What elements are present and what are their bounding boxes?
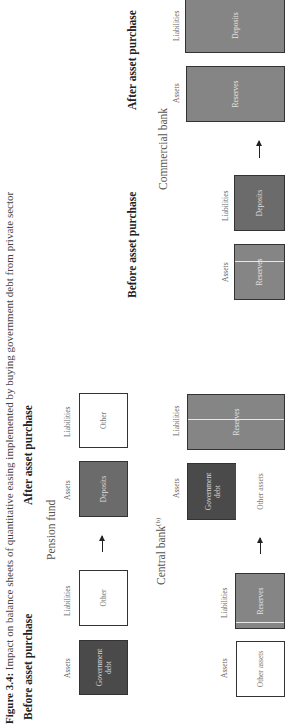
- central-before-liabilities-reserves: Reserves: [235, 573, 285, 629]
- figure-title: Figure 3.4: Impact on balance sheets of …: [3, 192, 15, 724]
- header-after-right: After asset purchase: [126, 10, 138, 110]
- commercial-bank-label: Commercial bank: [157, 108, 169, 190]
- pension-after-assets-deposits: Deposits: [79, 461, 128, 517]
- box-label: Reserves: [256, 587, 265, 614]
- right-arrow-icon: [102, 536, 103, 552]
- commercial-before-assets-reserves: Reserves: [234, 244, 285, 300]
- box-label: Deposits: [255, 190, 264, 216]
- commercial-after-assets-reserves: Reserves: [186, 66, 285, 122]
- liabilities-label: Liabilities: [172, 11, 181, 41]
- seam-line: [188, 419, 284, 420]
- central-before-assets-other: Other assets: [236, 641, 285, 697]
- central-bank-label: Central bank(b): [154, 518, 167, 585]
- assets-label: Assets: [63, 480, 72, 500]
- assets-label: Assets: [172, 83, 181, 103]
- box-label: Other assets: [256, 651, 265, 687]
- box-label: Other: [99, 412, 108, 429]
- central-after-assets: Government debt Other assets: [187, 463, 285, 520]
- right-arrow-icon: [260, 538, 261, 554]
- assets-label: Assets: [221, 262, 230, 282]
- seam-line: [235, 261, 284, 262]
- pension-before-assets-government-debt: Government debt: [79, 640, 128, 695]
- box-label: Deposits: [99, 476, 108, 502]
- box-label: Reserves: [232, 408, 241, 435]
- box-label: Other: [99, 589, 108, 606]
- figure-number: Figure 3.4:: [3, 673, 15, 724]
- box-label: Reserves: [255, 258, 264, 285]
- footnote-marker: (b): [154, 518, 162, 526]
- right-arrow-icon: [259, 141, 260, 158]
- pension-after-liabilities-other: Other: [79, 393, 128, 448]
- header-after-left: After asset purchase: [22, 405, 34, 505]
- liabilities-label: Liabilities: [220, 588, 229, 618]
- header-before-left: Before asset purchase: [22, 614, 34, 720]
- pension-before-liabilities-other: Other: [79, 570, 128, 626]
- central-after-liabilities-reserves: Reserves: [187, 394, 285, 450]
- box-label: Other assets: [256, 473, 265, 509]
- assets-label: Assets: [172, 478, 181, 498]
- liabilities-label: Liabilities: [221, 191, 230, 221]
- qe-balance-sheet-figure: Figure 3.4: Impact on balance sheets of …: [0, 0, 294, 724]
- box-label: Government debt: [204, 472, 222, 512]
- seam-line: [236, 622, 284, 623]
- box-label: Deposits: [231, 12, 240, 38]
- assets-label: Assets: [63, 658, 72, 678]
- commercial-after-liabilities-deposits: Deposits: [185, 0, 285, 53]
- commercial-before-liabilities-deposits: Deposits: [234, 175, 285, 231]
- box-label: Government debt: [95, 648, 113, 688]
- header-before-right: Before asset purchase: [126, 192, 138, 298]
- liabilities-label: Liabilities: [63, 586, 72, 616]
- figure-caption: Impact on balance sheets of quantitative…: [3, 192, 15, 673]
- central-after-assets-other: Other assets: [236, 463, 285, 520]
- liabilities-label: Liabilities: [172, 406, 181, 436]
- central-after-assets-government-debt: Government debt: [187, 463, 237, 520]
- assets-label: Assets: [220, 658, 229, 678]
- pension-fund-label: Pension fund: [45, 500, 57, 560]
- box-label: Reserves: [231, 80, 240, 107]
- central-bank-name: Central bank: [155, 526, 167, 585]
- liabilities-label: Liabilities: [63, 407, 72, 437]
